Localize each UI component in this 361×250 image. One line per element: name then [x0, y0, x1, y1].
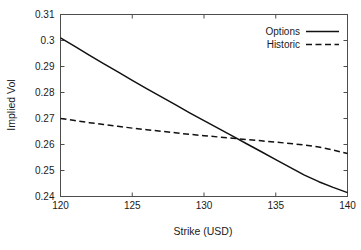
x-tick-label-130: 130 — [196, 200, 213, 211]
implied-vol-line-chart: 120125130135140 0.240.250.260.270.280.29… — [0, 0, 361, 250]
y-tick-label-0.24: 0.24 — [35, 191, 55, 202]
y-tick-label-0.27: 0.27 — [35, 113, 55, 124]
y-tick-label-0.3: 0.3 — [41, 35, 55, 46]
legend-label-options: Options — [266, 26, 300, 37]
y-tick-label-0.28: 0.28 — [35, 87, 55, 98]
legend-label-historic: Historic — [267, 39, 300, 50]
x-tick-label-125: 125 — [124, 200, 141, 211]
y-tick-label-0.29: 0.29 — [35, 61, 55, 72]
x-axis-title: Strike (USD) — [174, 225, 233, 237]
y-tick-label-0.25: 0.25 — [35, 165, 55, 176]
y-tick-label-0.31: 0.31 — [35, 9, 55, 20]
x-tick-label-120: 120 — [52, 200, 69, 211]
x-tick-label-135: 135 — [267, 200, 284, 211]
y-tick-label-0.26: 0.26 — [35, 139, 55, 150]
chart-figure: 120125130135140 0.240.250.260.270.280.29… — [0, 0, 361, 250]
y-axis-title: Implied Vol — [5, 79, 17, 130]
x-tick-label-140: 140 — [339, 200, 356, 211]
